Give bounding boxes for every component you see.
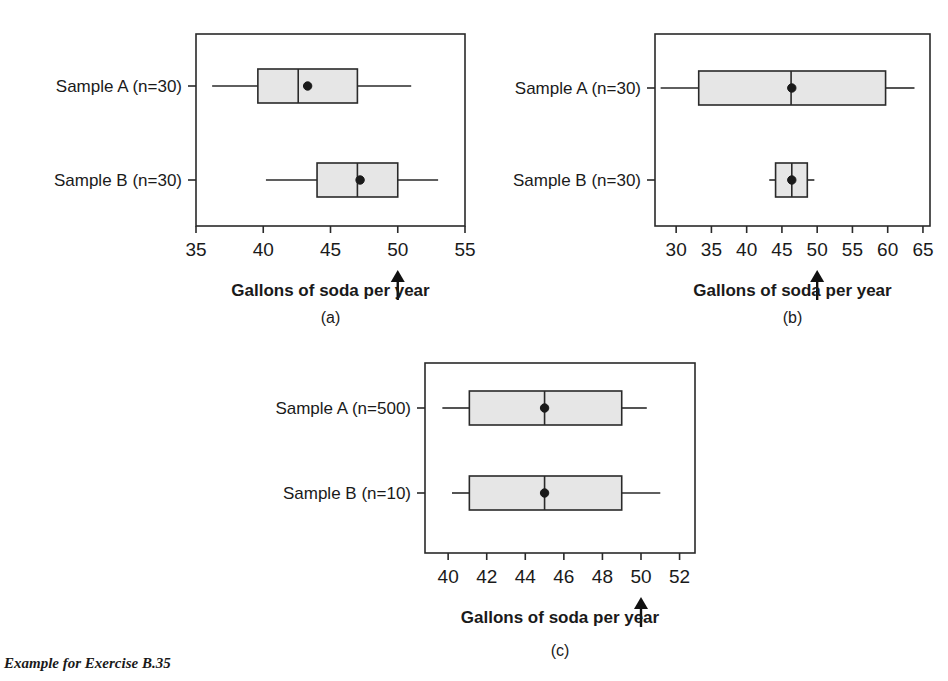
mean-dot	[540, 404, 548, 412]
x-tick-label: 30	[666, 239, 687, 260]
category-label: Sample A (n=30)	[56, 77, 182, 96]
figure-boxplots: 3540455055Sample A (n=30)Sample B (n=30)…	[0, 0, 948, 681]
x-tick-label: 65	[912, 239, 933, 260]
x-tick-label: 60	[877, 239, 898, 260]
x-tick-label: 50	[807, 239, 828, 260]
x-tick-label: 50	[630, 566, 651, 587]
x-tick-label: 45	[320, 239, 341, 260]
category-label: Sample A (n=500)	[275, 399, 411, 418]
category-label: Sample B (n=30)	[54, 171, 182, 190]
mean-dot	[356, 176, 364, 184]
panel-a-chart: 3540455055Sample A (n=30)Sample B (n=30)…	[0, 8, 480, 328]
panel-tag: (b)	[783, 309, 803, 326]
x-tick-label: 40	[253, 239, 274, 260]
x-tick-label: 42	[476, 566, 497, 587]
axis-title: Gallons of soda per year	[693, 281, 892, 300]
axis-title: Gallons of soda per year	[461, 608, 660, 627]
mean-dot	[788, 84, 796, 92]
x-tick-label: 48	[592, 566, 613, 587]
x-tick-label: 45	[771, 239, 792, 260]
boxplot-a	[442, 391, 646, 425]
category-label: Sample A (n=30)	[515, 79, 641, 98]
panel-c: 40424446485052Sample A (n=500)Sample B (…	[230, 338, 730, 663]
boxplot-a	[661, 71, 915, 105]
boxplot-a	[212, 69, 411, 103]
panel-tag: (a)	[321, 309, 341, 326]
x-tick-label: 50	[387, 239, 408, 260]
category-label: Sample B (n=10)	[283, 484, 411, 503]
x-tick-label: 35	[185, 239, 206, 260]
panel-a: 3540455055Sample A (n=30)Sample B (n=30)…	[0, 8, 480, 328]
axis-title: Gallons of soda per year	[231, 281, 430, 300]
x-tick-label: 40	[736, 239, 757, 260]
figure-caption: Example for Exercise B.35	[4, 655, 171, 672]
x-tick-label: 55	[842, 239, 863, 260]
boxplot-b	[452, 476, 660, 510]
panel-tag: (c)	[551, 642, 570, 659]
x-tick-label: 35	[701, 239, 722, 260]
x-tick-label: 44	[515, 566, 537, 587]
panel-b: 3035404550556065Sample A (n=30)Sample B …	[470, 8, 948, 328]
category-label: Sample B (n=30)	[513, 171, 641, 190]
mean-dot	[540, 489, 548, 497]
mean-dot	[303, 82, 311, 90]
boxplot-b	[266, 163, 438, 197]
x-tick-label: 52	[669, 566, 690, 587]
x-tick-label: 46	[553, 566, 574, 587]
panel-b-chart: 3035404550556065Sample A (n=30)Sample B …	[470, 8, 948, 328]
mean-dot	[788, 176, 796, 184]
panel-c-chart: 40424446485052Sample A (n=500)Sample B (…	[230, 338, 730, 663]
boxplot-b	[769, 163, 814, 197]
x-tick-label: 40	[438, 566, 459, 587]
